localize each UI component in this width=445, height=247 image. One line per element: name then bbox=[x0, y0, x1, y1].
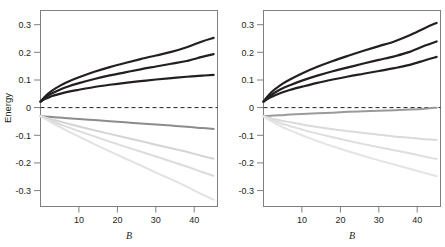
y-tick-label: -0.2 bbox=[15, 158, 31, 168]
data-curve-middle-black bbox=[264, 41, 437, 101]
x-tick-label: 20 bbox=[335, 215, 345, 225]
y-tick-label: 0.3 bbox=[18, 20, 31, 30]
y-tick-label: -0.3 bbox=[15, 186, 31, 196]
y-tick-label: -0.1 bbox=[238, 131, 254, 141]
y-tick-label: 0.3 bbox=[241, 20, 254, 30]
y-tick-label: -0.1 bbox=[15, 131, 31, 141]
y-tick-labels-right: 0.3 0.2 0.1 0 -0.1 -0.2 -0.3 bbox=[238, 20, 254, 196]
plot-svg-left: 0.3 0.2 0.1 0 -0.1 -0.2 -0.3 10 20 30 40 bbox=[0, 0, 222, 247]
x-axis-title: B bbox=[349, 230, 355, 241]
y-tick-label: 0 bbox=[249, 103, 254, 113]
data-curve-upper-lightgray bbox=[264, 116, 437, 140]
y-tick-label: 0 bbox=[26, 103, 31, 113]
y-tick-label: 0.2 bbox=[18, 48, 31, 58]
data-curve-middle2-lightgray bbox=[41, 116, 214, 176]
y-tick-label: 0.1 bbox=[18, 75, 31, 85]
x-axis-title: B bbox=[126, 230, 132, 241]
curve-group-right bbox=[264, 23, 437, 176]
x-tick-label: 10 bbox=[74, 215, 84, 225]
x-tick-label: 40 bbox=[189, 215, 199, 225]
y-tick-marks-right bbox=[257, 25, 264, 191]
figure-container: 0.3 0.2 0.1 0 -0.1 -0.2 -0.3 10 20 30 40 bbox=[0, 0, 445, 247]
data-curve-lower-lightgray bbox=[41, 116, 214, 199]
chart-panel-right: 0.3 0.2 0.1 0 -0.1 -0.2 -0.3 10 20 30 40 bbox=[223, 0, 445, 247]
y-tick-label: 0.2 bbox=[241, 48, 254, 58]
data-curve-lower-black bbox=[41, 75, 214, 102]
x-tick-labels-right: 10 20 30 40 bbox=[297, 215, 422, 225]
y-tick-marks-left bbox=[34, 25, 41, 191]
plot-svg-right: 0.3 0.2 0.1 0 -0.1 -0.2 -0.3 10 20 30 40 bbox=[223, 0, 445, 247]
x-tick-label: 10 bbox=[297, 215, 307, 225]
plot-frame-left bbox=[41, 11, 218, 207]
x-tick-label: 30 bbox=[151, 215, 161, 225]
y-axis-title: Energy bbox=[2, 93, 13, 123]
y-tick-label: -0.3 bbox=[238, 186, 254, 196]
x-tick-marks-right bbox=[302, 207, 417, 213]
x-tick-label: 30 bbox=[374, 215, 384, 225]
y-tick-label: -0.2 bbox=[238, 158, 254, 168]
y-tick-label: 0.1 bbox=[241, 75, 254, 85]
x-tick-label: 20 bbox=[112, 215, 122, 225]
x-tick-label: 40 bbox=[412, 215, 422, 225]
curve-group-left bbox=[41, 38, 214, 200]
data-curve-rising-gray bbox=[264, 108, 437, 117]
chart-panel-left: 0.3 0.2 0.1 0 -0.1 -0.2 -0.3 10 20 30 40 bbox=[0, 0, 222, 247]
x-tick-marks-left bbox=[79, 207, 194, 213]
y-tick-labels-left: 0.3 0.2 0.1 0 -0.1 -0.2 -0.3 bbox=[15, 20, 31, 196]
data-curve-middle-black bbox=[41, 54, 214, 101]
x-tick-labels-left: 10 20 30 40 bbox=[74, 215, 199, 225]
